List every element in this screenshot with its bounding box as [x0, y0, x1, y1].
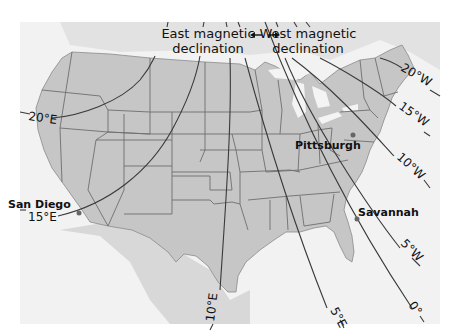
east-heading-line2: declination: [172, 41, 244, 56]
label-15e: 15°E: [28, 210, 57, 224]
declination-map: 20°E 15°E 10°E 5°E 0° 5°W 10°W 15°W 20°W…: [0, 0, 456, 336]
west-heading-line2: declination: [272, 41, 344, 56]
san-diego-dot: [77, 211, 82, 216]
city-savannah: Savannah: [358, 206, 419, 219]
city-san-diego: San Diego: [8, 198, 71, 211]
east-heading-line1: East magnetic: [161, 26, 254, 41]
city-pittsburgh: Pittsburgh: [295, 139, 361, 152]
west-heading-line1: West magnetic: [259, 26, 356, 41]
pittsburgh-dot: [351, 133, 356, 138]
